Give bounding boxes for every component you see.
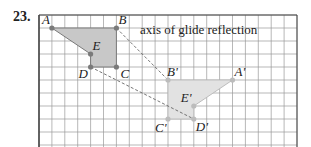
label-d: D <box>78 66 89 81</box>
label-b: B <box>118 12 126 27</box>
label-e-prime: E' <box>180 90 192 105</box>
axis-label: axis of glide reflection <box>140 22 258 37</box>
point-c <box>114 64 119 69</box>
label-c-prime: C' <box>155 120 167 135</box>
point-d <box>88 64 93 69</box>
glide-reflection-figure: ABCDEB'A'E'D'C' axis of glide reflection <box>0 0 311 147</box>
label-e: E <box>92 38 101 53</box>
label-a-prime: A' <box>234 64 246 79</box>
point-e-prime <box>191 103 196 108</box>
point-a <box>49 25 54 30</box>
label-b-prime: B' <box>167 64 178 79</box>
image-polygon <box>168 80 233 119</box>
label-c: C <box>120 66 129 81</box>
label-a: A <box>41 12 50 27</box>
label-d-prime: D' <box>195 119 208 134</box>
original-polygon <box>52 28 117 67</box>
